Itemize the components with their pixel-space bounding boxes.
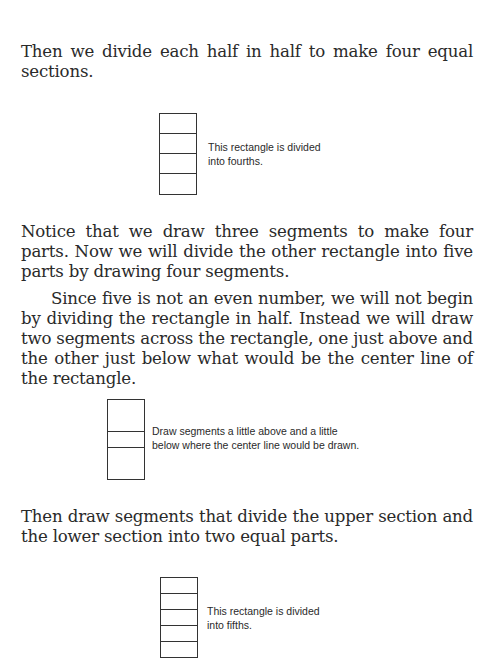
caption-line: This rectangle is divided — [208, 141, 321, 155]
segment-line — [108, 431, 144, 432]
caption-line: Draw segments a little above and a littl… — [152, 425, 359, 439]
segment-line — [161, 625, 197, 626]
caption-line: below where the center line would be dra… — [152, 439, 359, 453]
rectangle-fourths — [159, 113, 197, 195]
segment-line — [161, 609, 197, 610]
rectangle-center-segments — [107, 399, 145, 480]
paragraph-notice-segments: Notice that we draw three segments to ma… — [21, 222, 473, 282]
paragraph-five-not-even: Since five is not an even number, we wil… — [21, 289, 473, 389]
paragraph-divide-halves: Then we divide each half in half to make… — [21, 42, 473, 82]
segment-line — [161, 593, 197, 594]
caption-fifths: This rectangle is divided into fifths. — [207, 605, 320, 632]
paragraph-divide-upper-lower: Then draw segments that divide the upper… — [21, 507, 473, 547]
caption-fourths: This rectangle is divided into fourths. — [208, 141, 321, 168]
caption-center-segments: Draw segments a little above and a littl… — [152, 425, 359, 452]
segment-line — [160, 153, 196, 154]
caption-line: into fifths. — [207, 619, 320, 633]
segment-line — [161, 641, 197, 642]
segment-line — [160, 133, 196, 134]
caption-line: into fourths. — [208, 155, 321, 169]
segment-line — [160, 173, 196, 174]
rectangle-fifths — [160, 577, 198, 658]
segment-line — [108, 447, 144, 448]
caption-line: This rectangle is divided — [207, 605, 320, 619]
